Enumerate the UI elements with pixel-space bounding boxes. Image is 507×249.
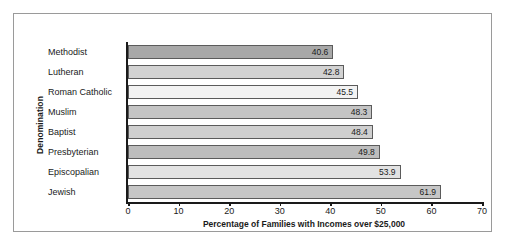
chart-frame: Denomination Methodist Lutheran Roman Ca…	[13, 13, 492, 232]
x-axis-tick-label: 0	[125, 206, 130, 216]
bar[interactable]: 48.3	[128, 105, 372, 119]
bar[interactable]: 48.4	[128, 125, 373, 139]
plot-area: 40.6 42.8 45.5 48.3 48.4	[126, 42, 482, 202]
bar-value-label: 49.8	[355, 147, 378, 157]
bar-row: 45.5	[128, 82, 482, 102]
bar-row: 61.9	[128, 182, 482, 202]
bar[interactable]: 61.9	[128, 185, 441, 199]
x-axis-title: Percentage of Families with Incomes over…	[126, 219, 482, 229]
bar[interactable]: 45.5	[128, 85, 358, 99]
x-axis-tick-label: 60	[426, 206, 436, 216]
bar[interactable]: 49.8	[128, 145, 380, 159]
category-label: Methodist	[48, 42, 122, 62]
category-label: Jewish	[48, 182, 122, 202]
bar[interactable]: 40.6	[128, 45, 333, 59]
bar-value-label: 48.4	[348, 127, 371, 137]
category-label: Muslim	[48, 102, 122, 122]
x-axis-tick-label: 50	[376, 206, 386, 216]
x-axis-tick-label: 40	[325, 206, 335, 216]
bar-row: 42.8	[128, 62, 482, 82]
bar-value-label: 48.3	[348, 107, 371, 117]
x-axis-tick-label: 70	[477, 206, 487, 216]
bar-row: 48.3	[128, 102, 482, 122]
bar-value-label: 42.8	[320, 67, 343, 77]
bar-row: 48.4	[128, 122, 482, 142]
bar[interactable]: 42.8	[128, 65, 344, 79]
bar-row: 40.6	[128, 42, 482, 62]
bar-row: 53.9	[128, 162, 482, 182]
y-axis-title-text: Denomination	[35, 96, 45, 154]
category-label: Roman Catholic	[48, 82, 122, 102]
bar-value-label: 40.6	[309, 47, 332, 57]
x-axis-ticks: 010203040506070	[126, 202, 482, 218]
category-label: Presbyterian	[48, 142, 122, 162]
x-axis-tick-label: 30	[275, 206, 285, 216]
x-axis-tick-label: 10	[174, 206, 184, 216]
x-axis-tick-label: 20	[224, 206, 234, 216]
bar-value-label: 61.9	[416, 187, 439, 197]
bar-value-label: 53.9	[376, 167, 399, 177]
category-axis-labels: Methodist Lutheran Roman Catholic Muslim…	[48, 42, 122, 202]
y-axis-title: Denomination	[33, 52, 47, 198]
category-label: Episcopalian	[48, 162, 122, 182]
bar-row: 49.8	[128, 142, 482, 162]
bar-value-label: 45.5	[334, 87, 357, 97]
category-label: Lutheran	[48, 62, 122, 82]
bar-series: 40.6 42.8 45.5 48.3 48.4	[128, 42, 482, 202]
category-label: Baptist	[48, 122, 122, 142]
bar[interactable]: 53.9	[128, 165, 401, 179]
